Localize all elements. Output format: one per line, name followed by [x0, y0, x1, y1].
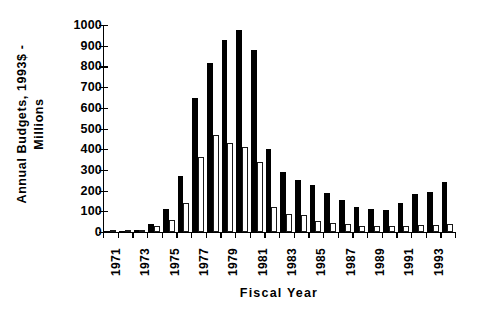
bar-light: [139, 230, 145, 232]
x-tick-label: 1981: [256, 248, 270, 276]
bar-group: [308, 25, 323, 232]
x-tick-label: 1979: [226, 248, 240, 276]
bar-light: [359, 226, 365, 232]
bar-light: [403, 226, 409, 232]
x-tick-label: 1993: [432, 248, 446, 276]
bar-group: [103, 25, 118, 232]
bar-group: [294, 25, 309, 232]
bar-group: [191, 25, 206, 232]
bar-group: [411, 25, 426, 232]
bar-group: [235, 25, 250, 232]
bar-light: [447, 224, 453, 232]
bar-series-container: [103, 25, 455, 232]
bar-group: [338, 25, 353, 232]
bar-group: [132, 25, 147, 232]
bar-light: [374, 226, 380, 232]
bar-group: [352, 25, 367, 232]
bar-group: [367, 25, 382, 232]
bar-light: [110, 230, 116, 232]
x-tick-label: 1987: [344, 248, 358, 276]
bar-group: [440, 25, 455, 232]
bar-group: [162, 25, 177, 232]
bar-light: [213, 135, 219, 232]
bar-light: [198, 157, 204, 232]
bar-light: [389, 226, 395, 232]
y-tick-label: 1000: [73, 19, 102, 31]
bar-group: [396, 25, 411, 232]
bar-light: [125, 230, 131, 232]
bar-group: [206, 25, 221, 232]
chart-figure: Annual Budgets, 1993$ - Millions 0100200…: [0, 0, 482, 313]
x-axis-tick-labels: 1971197319751977197919811983198519871989…: [103, 234, 455, 282]
y-axis-title: Annual Budgets, 1993$ - Millions: [14, 6, 48, 242]
bar-light: [242, 147, 248, 232]
x-tick-label: 1975: [168, 248, 182, 276]
bar-group: [323, 25, 338, 232]
plot-area: [103, 25, 455, 232]
x-tick-label: 1991: [402, 248, 416, 276]
x-axis-title: Fiscal Year: [103, 286, 455, 300]
y-axis-tick-labels: 01002003004005006007008009001000: [56, 0, 102, 260]
bar-light: [169, 220, 175, 232]
bar-light: [418, 225, 424, 232]
bar-light: [301, 215, 307, 232]
bar-light: [433, 225, 439, 232]
bar-group: [426, 25, 441, 232]
bar-group: [382, 25, 397, 232]
x-tick-label: 1977: [197, 248, 211, 276]
bar-group: [264, 25, 279, 232]
bar-light: [286, 214, 292, 232]
bar-light: [183, 203, 189, 232]
bar-group: [176, 25, 191, 232]
bar-group: [220, 25, 235, 232]
bar-light: [227, 143, 233, 232]
bar-light: [154, 226, 160, 232]
x-tick-label: 1973: [138, 248, 152, 276]
x-tick-label: 1989: [373, 248, 387, 276]
bar-light: [271, 207, 277, 232]
bar-group: [118, 25, 133, 232]
bar-group: [147, 25, 162, 232]
bar-group: [250, 25, 265, 232]
x-tick-mark: [455, 233, 456, 238]
bar-light: [257, 162, 263, 232]
bar-light: [315, 221, 321, 232]
x-tick-label: 1983: [285, 248, 299, 276]
x-tick-label: 1985: [314, 248, 328, 276]
x-tick-label: 1971: [109, 248, 123, 276]
bar-light: [345, 224, 351, 232]
bar-group: [279, 25, 294, 232]
bar-light: [330, 223, 336, 232]
